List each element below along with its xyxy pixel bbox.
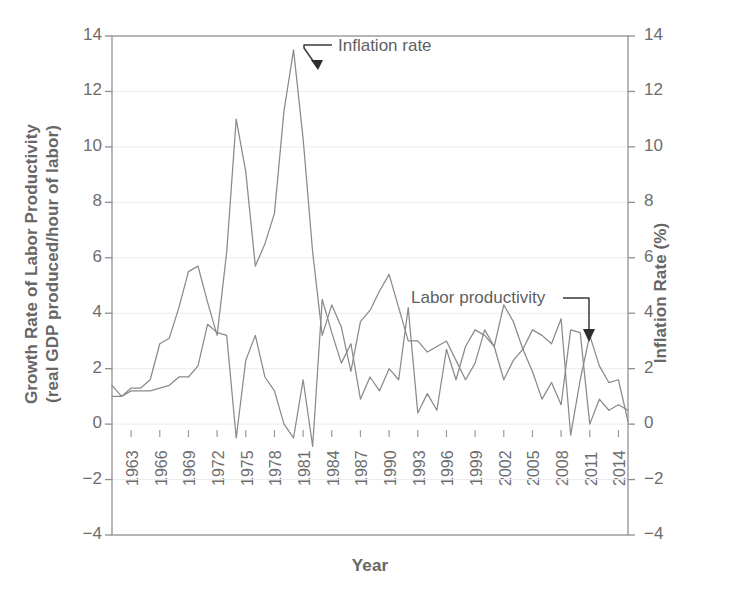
annotation-labor-productivity: Labor productivity bbox=[411, 288, 545, 308]
plot-area bbox=[0, 0, 733, 597]
annotation-leader-productivity bbox=[563, 298, 589, 330]
plot-frame bbox=[112, 36, 628, 535]
annotation-inflation-rate: Inflation rate bbox=[338, 36, 432, 56]
annotation-arrowhead-productivity bbox=[583, 329, 595, 342]
chart-figure: Growth Rate of Labor Productivity (real … bbox=[0, 0, 733, 597]
annotation-arrowhead-inflation bbox=[311, 60, 323, 70]
